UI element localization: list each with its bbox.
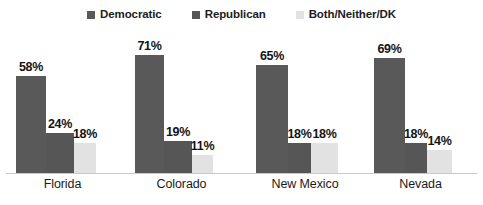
legend-label-both-neither-dk: Both/Neither/DK (309, 9, 396, 21)
bar-both-neither-dk (427, 150, 452, 173)
bar-republican (164, 141, 192, 173)
bar-value-label: 65% (260, 50, 284, 63)
bar-value-label: 14% (427, 135, 451, 148)
category-label: Florida (6, 178, 119, 191)
bar-value-label: 18% (312, 128, 336, 141)
legend-label-republican: Republican (205, 9, 266, 21)
chart-legend: Democratic Republican Both/Neither/DK (0, 9, 483, 21)
bars-container: 69%18%14% (364, 30, 477, 173)
legend-swatch-republican (192, 11, 200, 19)
bar-value-label: 24% (48, 118, 72, 131)
bar-group-colorado: 71%19%11%Colorado (125, 30, 238, 205)
bar-value-label: 18% (287, 128, 311, 141)
legend-item-both-neither-dk: Both/Neither/DK (296, 9, 396, 21)
bar-value-label: 71% (137, 40, 161, 53)
bar-republican (46, 133, 74, 173)
plot-area: 58%24%18%Florida71%19%11%Colorado65%18%1… (0, 30, 483, 205)
bar-democratic (135, 55, 164, 173)
legend-item-republican: Republican (192, 9, 266, 21)
bar-value-label: 58% (19, 61, 43, 74)
bar-both-neither-dk (74, 143, 96, 173)
bar-value-label: 18% (73, 128, 97, 141)
bar-value-label: 18% (404, 128, 428, 141)
category-label: Nevada (364, 178, 477, 191)
bar-republican (288, 143, 311, 173)
bar-value-label: 11% (191, 140, 214, 153)
bar-both-neither-dk (311, 143, 338, 173)
category-label: Colorado (125, 178, 238, 191)
bars-container: 58%24%18% (6, 30, 119, 173)
bar-both-neither-dk (192, 155, 213, 173)
category-label: New Mexico (246, 178, 364, 191)
bar-value-label: 19% (166, 126, 190, 139)
bars-container: 65%18%18% (246, 30, 364, 173)
bar-democratic (374, 58, 405, 173)
legend-item-democratic: Democratic (87, 9, 162, 21)
bar-democratic (256, 65, 288, 173)
bar-group-florida: 58%24%18%Florida (6, 30, 119, 205)
bar-group-new-mexico: 65%18%18%New Mexico (246, 30, 364, 205)
bar-group-nevada: 69%18%14%Nevada (364, 30, 477, 205)
bar-democratic (16, 76, 46, 173)
legend-swatch-democratic (87, 11, 95, 19)
legend-swatch-both-neither-dk (296, 11, 304, 19)
legend-label-democratic: Democratic (100, 9, 162, 21)
bars-container: 71%19%11% (125, 30, 238, 173)
bar-value-label: 69% (377, 43, 401, 56)
bar-republican (405, 143, 427, 173)
bar-chart: Democratic Republican Both/Neither/DK 58… (0, 0, 483, 205)
